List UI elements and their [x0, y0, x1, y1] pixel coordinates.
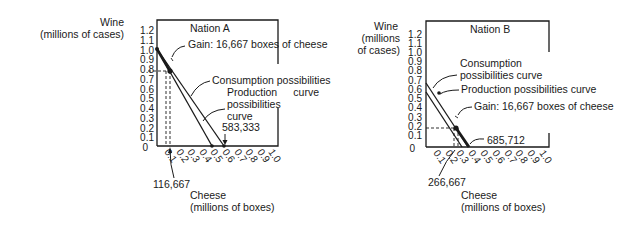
nation-b-ylabel-line2: (millions — [361, 32, 400, 44]
nation-a-ppc-x-intercept — [210, 144, 214, 148]
trade-gains-figure: Wine (millions of cases) 1.2 1.1 1.0 0.9… — [0, 0, 632, 229]
nation-a-chart: Wine (millions of cases) 1.2 1.1 1.0 0.9… — [40, 16, 331, 213]
nation-a-gain-leader — [172, 46, 185, 57]
nation-b-ppc-leader — [440, 90, 459, 94]
nation-b-xlabel-line2: (millions of boxes) — [461, 201, 546, 213]
nation-a-intercept-dot — [155, 47, 159, 51]
nation-b-gain-label: Gain: 16,667 boxes of cheese — [474, 100, 614, 112]
nation-a-ppc-leader — [203, 109, 225, 121]
nation-a-x-ticks: 0.1 0.2 0.3 0.4 0.5 0.6 0.7 0.8 0.9 1.0 — [162, 147, 283, 165]
nation-b-value-266667: 266,667 — [428, 176, 466, 188]
x-tick: 1.0 — [537, 148, 554, 166]
nation-a-cpc-x-intercept — [222, 144, 226, 148]
x-tick: 1.0 — [266, 147, 283, 165]
nation-b-xlabel-line1: Cheese — [461, 189, 497, 201]
nation-b-ylabel-line3: of cases) — [357, 44, 400, 56]
nation-a-cpc-label-2: curve — [293, 86, 319, 98]
y-tick: 0 — [142, 142, 148, 153]
nation-b-title: Nation B — [470, 23, 510, 35]
nation-a-ylabel-line2: (millions of cases) — [40, 28, 124, 40]
nation-b-685712-leader — [470, 139, 484, 144]
nation-a-value-116667: 116,667 — [153, 178, 190, 190]
nation-b-cpc-leader — [433, 75, 457, 88]
nation-a-consumption-curve — [157, 49, 224, 146]
nation-a-xlabel-line1: Cheese — [190, 189, 226, 201]
nation-b-cpc-label-1: Consumption — [460, 57, 522, 69]
nation-b-ppc-label: Production possibilities curve — [461, 83, 597, 95]
nation-b-chart: Wine (millions of cases) 1.2 1.1 1.0 0.9… — [357, 20, 613, 213]
nation-a-title: Nation A — [190, 22, 230, 34]
nation-b-value-685712: 685,712 — [487, 134, 525, 146]
nation-a-value-583333: 583,333 — [222, 121, 260, 133]
y-tick: 0 — [409, 143, 415, 154]
nation-a-y-ticks: 1.2 1.1 1.0 0.9 0.8 0.7 0.6 0.5 0.4 0.3 … — [140, 25, 154, 153]
nation-a-cpc-leader — [191, 81, 210, 96]
nation-b-gain-brace — [455, 116, 458, 118]
y-tick: 0.1 — [408, 130, 422, 141]
nation-b-ylabel-line1: Wine — [374, 20, 398, 32]
nation-a-gain-brace — [171, 58, 173, 61]
nation-a-gain-label: Gain: 16,667 boxes of cheese — [188, 38, 328, 50]
nation-a-cpc-label-1: Consumption possibilities — [212, 74, 330, 86]
nation-a-ppc-label-1: Production — [227, 86, 277, 98]
nation-a-ylabel-line1: Wine — [100, 16, 124, 28]
nation-a-xlabel-line2: (millions of boxes) — [190, 201, 275, 213]
nation-a-ppc-label-2: possibilities — [227, 98, 281, 110]
nation-b-cpc-label-2: possibilities curve — [460, 69, 542, 81]
nation-b-production-curve — [426, 92, 462, 147]
nation-b-y-ticks: 1.2 1.1 1.0 0.9 0.8 0.7 0.6 0.5 0.4 0.3 … — [408, 29, 422, 154]
nation-b-gain-leader — [458, 107, 472, 115]
